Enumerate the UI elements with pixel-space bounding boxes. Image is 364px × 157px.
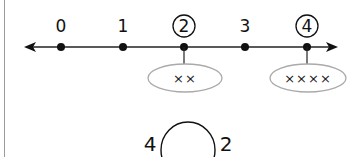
tick-label-1: 1 (118, 16, 129, 36)
group-marks-2: ×× (173, 71, 197, 86)
number-line-diagram: 0 1 2 3 4 ×× ×××× 4 2 (0, 0, 364, 157)
point-1 (119, 43, 127, 51)
comparison-answer-circle[interactable] (161, 122, 215, 157)
group-marks-4: ×××× (284, 71, 332, 86)
comparison-left: 4 (144, 132, 157, 156)
comparison-right: 2 (220, 132, 233, 156)
tick-label-2: 2 (179, 16, 190, 36)
tick-label-0: 0 (56, 16, 67, 36)
point-3 (241, 43, 249, 51)
point-0 (57, 43, 65, 51)
tick-label-4: 4 (302, 16, 313, 36)
tick-label-3: 3 (240, 16, 251, 36)
